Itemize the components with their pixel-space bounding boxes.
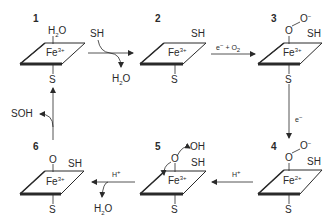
thiolate-ligand-3: S [285, 75, 292, 85]
oxygen-distal-4: O− [300, 141, 311, 151]
state-label-1: 1 [33, 14, 39, 24]
water-product-1-2: H2O [112, 74, 130, 84]
iron-center-1: Fe3+ [46, 48, 65, 58]
thiolate-ligand-2: S [171, 75, 178, 85]
oxygen-distal-3: O− [300, 14, 311, 24]
electron-oxygen-label: e− + O2 [216, 44, 240, 51]
proton-label-5-6: H+ [112, 171, 121, 178]
iron-center-5: Fe3+ [168, 176, 187, 186]
sh-group-5: SH [191, 158, 205, 168]
water-ligand-1: H2O [48, 26, 66, 36]
arrow-6-to-1 [40, 88, 53, 140]
thiolate-ligand-6: S [49, 205, 56, 215]
sh-group-6: SH [68, 159, 82, 169]
electron-label-3-4: e− [295, 116, 302, 123]
sh-group-2: SH [191, 29, 205, 39]
proton-label-4-5: H+ [232, 171, 241, 178]
oxygen-proximal-5: O [171, 154, 179, 164]
substrate-sh-label: SH [90, 29, 104, 39]
iron-center-6: Fe3+ [46, 177, 65, 187]
arrow-5-to-6 [92, 182, 135, 197]
thiolate-ligand-5: S [171, 205, 178, 215]
water-product-5-6: H2O [94, 204, 112, 214]
iron-center-4: Fe2+ [283, 176, 302, 186]
oxygen-proximal-3: O [285, 26, 293, 36]
hydroxyl-leaving-5: OH [190, 142, 205, 152]
state-label-4: 4 [271, 142, 277, 152]
oxygen-proximal-4: O [285, 153, 293, 163]
thiolate-ligand-4: S [285, 205, 292, 215]
arrow-1-to-2 [88, 40, 133, 67]
state-label-6: 6 [33, 142, 39, 152]
thiolate-ligand-1: S [49, 75, 56, 85]
state-label-3: 3 [271, 14, 277, 24]
state-label-2: 2 [155, 14, 161, 24]
oxygen-ligand-6: O [49, 155, 57, 165]
iron-center-3: Fe3+ [283, 48, 302, 58]
iron-center-2: Fe3+ [168, 48, 187, 58]
state-label-5: 5 [155, 142, 161, 152]
sh-group-3: SH [307, 29, 321, 39]
sh-group-4: SH [307, 157, 321, 167]
sulfenic-acid-product: SOH [11, 109, 33, 119]
